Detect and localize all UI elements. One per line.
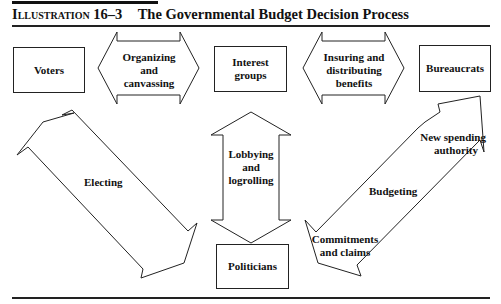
electing-label: Electing bbox=[84, 176, 123, 189]
voters-label: Voters bbox=[34, 64, 64, 77]
budgeting-label: Budgeting bbox=[369, 185, 417, 198]
electing-arrow bbox=[17, 110, 197, 278]
bureaucrats-box: Bureaucrats bbox=[419, 45, 491, 92]
bureaucrats-label: Bureaucrats bbox=[426, 62, 484, 75]
organizing-label: Organizingandcanvassing bbox=[120, 51, 178, 90]
insuring-label: Insuring anddistributingbenefits bbox=[323, 51, 385, 90]
new-spending-label: New spendingauthority bbox=[411, 131, 486, 157]
lobbying-label: Lobbyingandlogrolling bbox=[224, 148, 278, 187]
politicians-label: Politicians bbox=[228, 260, 277, 273]
interest-groups-label: Interest groups bbox=[226, 56, 276, 82]
commitments-label: Commitmentsand claims bbox=[311, 233, 379, 259]
interest-groups-box: Interest groups bbox=[214, 46, 287, 92]
voters-box: Voters bbox=[13, 47, 85, 93]
politicians-box: Politicians bbox=[216, 244, 289, 289]
